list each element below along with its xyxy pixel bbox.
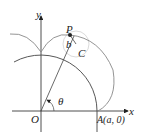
x-axis-label: x xyxy=(129,106,134,117)
point-a-label: A(a, 0) xyxy=(97,115,125,125)
fixed-circle xyxy=(14,55,97,132)
angle-label: θ xyxy=(58,96,63,107)
radius-b-label: b xyxy=(66,39,72,50)
epicycloid-diagram: y x O P b C θ A(a, 0) xyxy=(0,0,141,136)
center-c-label: C xyxy=(78,48,85,59)
point-p-label: P xyxy=(66,24,73,35)
y-axis-label: y xyxy=(36,9,41,20)
origin-label: O xyxy=(31,114,39,125)
angle-arc xyxy=(47,100,54,111)
